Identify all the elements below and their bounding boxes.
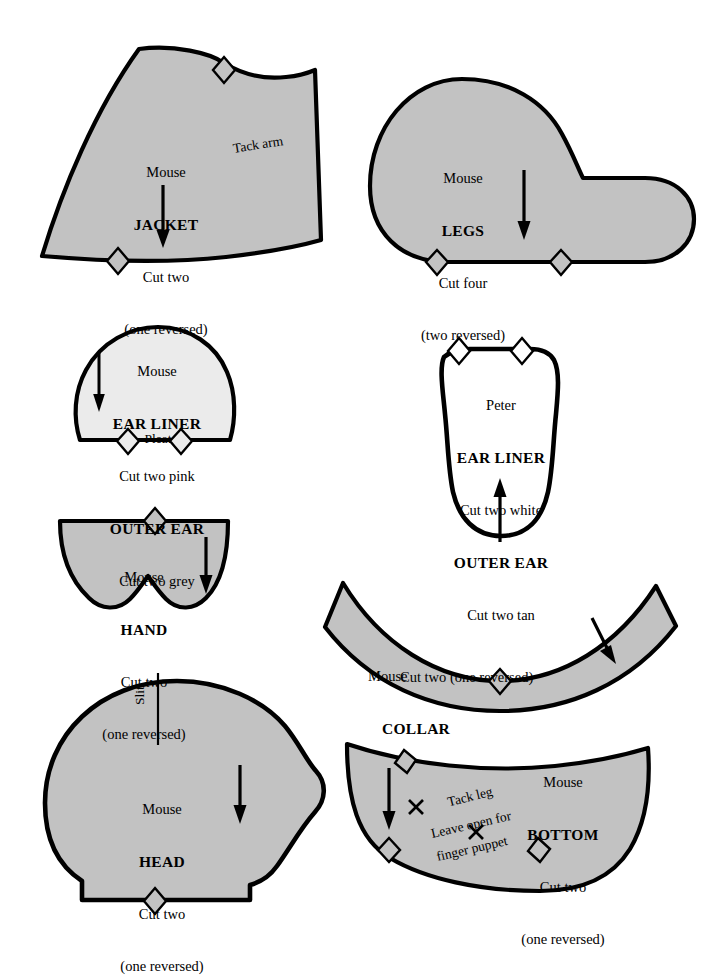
hand-part: HAND <box>74 621 214 638</box>
collar-cut: Cut two (one reversed) <box>400 669 600 685</box>
peter-ear-cut2: Cut two tan <box>428 607 574 623</box>
jacket-owner: Mouse <box>96 164 236 180</box>
legs-note: (two reversed) <box>393 327 533 343</box>
legs-cut: Cut four <box>393 275 533 291</box>
jacket-cut: Cut two <box>96 269 236 285</box>
head-label-block: Mouse HEAD Cut two (one reversed) <box>92 765 232 979</box>
mouse-ear-pleat-label: Pleat <box>118 431 198 446</box>
jacket-part: JACKET <box>96 216 236 233</box>
bottom-owner: Mouse <box>498 774 628 790</box>
mouse-ear-part: EAR LINER <box>84 415 230 432</box>
legs-label-block: Mouse LEGS Cut four (two reversed) <box>393 134 533 379</box>
head-slit-label: Slit <box>132 675 147 717</box>
collar-part: COLLAR <box>368 720 478 737</box>
peter-ear-part2: OUTER EAR <box>428 554 574 571</box>
hand-label-block: Mouse HAND Cut two (one reversed) <box>74 533 214 778</box>
hand-note: (one reversed) <box>74 726 214 742</box>
mouse-ear-cut: Cut two pink <box>84 468 230 484</box>
bottom-cut: Cut two <box>498 879 628 895</box>
legs-owner: Mouse <box>393 170 533 186</box>
head-cut: Cut two <box>92 906 232 922</box>
head-part: HEAD <box>92 853 232 870</box>
peter-ear-cut: Cut two white <box>428 502 574 518</box>
head-owner: Mouse <box>92 801 232 817</box>
peter-ear-part: EAR LINER <box>428 449 574 466</box>
bottom-note: (one reversed) <box>498 931 628 947</box>
peter-ear-owner: Peter <box>428 397 574 413</box>
head-note: (one reversed) <box>92 958 232 974</box>
collar-label-block: Mouse COLLAR <box>368 632 478 773</box>
peter-ear-label-block: Peter EAR LINER Cut two white OUTER EAR … <box>428 361 574 659</box>
hand-owner: Mouse <box>74 569 214 585</box>
bottom-label-block: Mouse BOTTOM Cut two (one reversed) <box>498 738 628 979</box>
mouse-ear-owner: Mouse <box>84 363 230 379</box>
legs-part: LEGS <box>393 222 533 239</box>
